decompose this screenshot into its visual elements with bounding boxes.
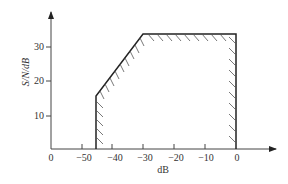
x-tick-label--10: −10 (198, 152, 214, 163)
region-boundary (96, 34, 236, 149)
x-tick-label--40: −40 (107, 152, 123, 163)
origin-label: 0 (49, 152, 54, 163)
y-tick-label-30: 30 (34, 41, 44, 52)
x-axis-title: dB (157, 164, 169, 175)
y-tick-label-20: 20 (34, 75, 44, 86)
y-tick-label-10: 10 (34, 110, 44, 121)
hatch-marks (96, 34, 236, 144)
x-tick-label--30: −30 (137, 152, 153, 163)
x-tick-label-0: 0 (235, 152, 240, 163)
x-ticks (82, 144, 205, 149)
y-ticks (46, 47, 51, 116)
x-tick-label--50: −50 (76, 152, 92, 163)
region-diagram: 30 20 10 0 −50 −40 −30 −20 −10 0 dB S/N/… (0, 0, 288, 184)
y-axis-title: S/N/dB (20, 58, 31, 86)
x-tick-label--20: −20 (168, 152, 184, 163)
